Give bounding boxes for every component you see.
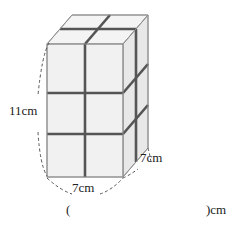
width-label: 7cm: [72, 181, 94, 194]
height-label: 11cm: [9, 104, 37, 117]
depth-label: 7cm: [140, 151, 162, 164]
answer-unit: )cm: [206, 203, 226, 216]
answer-blank: ( )cm: [66, 203, 236, 219]
width-dash-left: [47, 178, 72, 194]
width-dash-right: [100, 178, 123, 194]
height-dash-lower: [38, 132, 47, 176]
answer-open-paren: (: [66, 203, 70, 216]
cuboid-figure: 11cm 7cm 7cm: [0, 0, 236, 232]
